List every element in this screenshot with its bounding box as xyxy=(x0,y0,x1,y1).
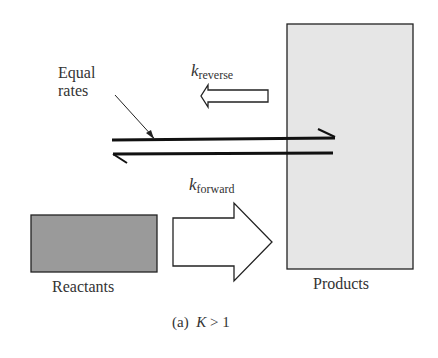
equal-rates-line1: Equal xyxy=(58,64,95,82)
equal-rates-pointer-icon xyxy=(115,95,154,138)
k-reverse-symbol: k xyxy=(191,61,199,80)
k-forward-symbol: k xyxy=(189,175,197,194)
caption-relation: > 1 xyxy=(210,314,230,330)
reverse-rate-arrow-icon xyxy=(201,85,268,107)
products-label: Products xyxy=(313,275,369,292)
pointer-arrowhead-icon xyxy=(146,130,154,139)
k-reverse-label: kreverse xyxy=(191,62,233,84)
k-forward-subscript: forward xyxy=(197,182,235,196)
reactants-box xyxy=(31,215,157,272)
reactants-label: Reactants xyxy=(52,278,114,295)
products-box xyxy=(287,24,413,269)
caption-prefix: (a) xyxy=(172,314,189,330)
forward-rate-arrow-icon xyxy=(173,203,272,281)
k-forward-label: kforward xyxy=(189,176,235,198)
caption-variable: K xyxy=(196,314,206,330)
caption: (a) K > 1 xyxy=(172,314,230,331)
k-reverse-subscript: reverse xyxy=(199,68,234,82)
equal-rates-line2: rates xyxy=(58,82,95,100)
equal-rates-label: Equal rates xyxy=(58,64,95,100)
